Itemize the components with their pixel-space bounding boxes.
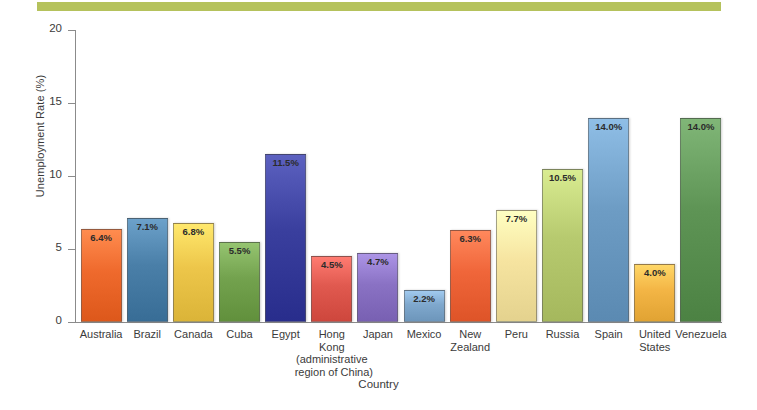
bar-value-label: 6.8%: [167, 226, 220, 237]
bar-value-label: 14.0%: [674, 121, 727, 132]
bar-slot: 2.2%: [404, 30, 445, 322]
bar-value-label: 11.5%: [259, 157, 312, 168]
bar-value-label: 7.1%: [121, 221, 174, 232]
y-axis-tick-label: 15: [22, 95, 62, 107]
x-axis-label-line: States: [618, 341, 692, 354]
bar-slot: 6.3%: [450, 30, 491, 322]
bar-slot: 7.7%: [496, 30, 537, 322]
y-axis-tick-label: 20: [22, 22, 62, 34]
bar[interactable]: [127, 218, 168, 322]
y-axis-tick: [68, 249, 76, 250]
bar-slot: 4.5%: [311, 30, 352, 322]
bar-slot: 4.7%: [357, 30, 398, 322]
x-axis-label-line: Kong: [295, 341, 369, 354]
x-axis-label-line: (administrative: [295, 353, 369, 366]
plot-area: 6.4%7.1%6.8%5.5%11.5%4.5%4.7%2.2%6.3%7.7…: [76, 30, 722, 322]
bar[interactable]: [265, 154, 306, 322]
bar-slot: 10.5%: [542, 30, 583, 322]
x-axis-label-line: region of China): [295, 366, 369, 379]
bar-value-label: 6.3%: [444, 233, 497, 244]
bar[interactable]: [173, 223, 214, 322]
bar-value-label: 5.5%: [213, 245, 266, 256]
bar[interactable]: [81, 229, 122, 322]
bar-slot: 6.8%: [173, 30, 214, 322]
bar[interactable]: [680, 118, 721, 322]
y-axis-tick-label: 5: [22, 241, 62, 253]
bar-slot: 11.5%: [265, 30, 306, 322]
y-axis-tick: [68, 176, 76, 177]
x-axis-label: Venezuela: [664, 328, 738, 341]
bar-value-label: 4.0%: [628, 267, 681, 278]
unemployment-rate-bar-chart: Unemployment Rate (%) Country 05101520 6…: [0, 0, 757, 410]
y-axis-tick: [68, 103, 76, 104]
y-axis-tick: [68, 30, 76, 31]
bar-value-label: 6.4%: [75, 232, 128, 243]
bar-value-label: 2.2%: [398, 293, 451, 304]
x-axis-title: Country: [0, 378, 757, 390]
bar-value-label: 4.7%: [351, 256, 404, 267]
bar-value-label: 14.0%: [582, 121, 635, 132]
decorative-top-band: [37, 2, 721, 11]
y-axis-tick: [68, 322, 76, 323]
x-axis-label-line: Venezuela: [664, 328, 738, 341]
bar-slot: 7.1%: [127, 30, 168, 322]
bar[interactable]: [542, 169, 583, 322]
y-axis-tick-label: 10: [22, 168, 62, 180]
bar-value-label: 7.7%: [490, 213, 543, 224]
bar-value-label: 4.5%: [305, 259, 358, 270]
bar-slot: 4.0%: [634, 30, 675, 322]
bar[interactable]: [588, 118, 629, 322]
bar-slot: 14.0%: [588, 30, 629, 322]
bar-value-label: 10.5%: [536, 172, 589, 183]
y-axis-title: Unemployment Rate (%): [34, 36, 46, 236]
bar[interactable]: [496, 210, 537, 322]
bar-slot: 5.5%: [219, 30, 260, 322]
x-axis-label-line: Zealand: [433, 341, 507, 354]
y-axis-tick-label: 0: [22, 314, 62, 326]
x-axis-line: [75, 322, 722, 323]
bar-slot: 6.4%: [81, 30, 122, 322]
bar-slot: 14.0%: [680, 30, 721, 322]
